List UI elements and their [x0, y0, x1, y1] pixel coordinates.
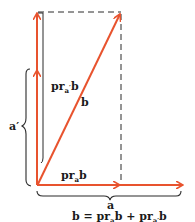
a-prime-direction-line: [38, 13, 43, 163]
equation: b = prab + pra′b: [72, 210, 167, 222]
vector-projection-diagram: b pra′b prab a′ a b = prab + pra′b: [0, 0, 195, 222]
a-prime-brace: [22, 69, 31, 186]
label-pr-a-b: prab: [61, 169, 87, 184]
vectors: [37, 13, 183, 185]
b-vector: [38, 14, 120, 184]
label-pr-a-prime-b: pra′b: [51, 80, 79, 95]
label-b: b: [81, 96, 89, 109]
label-a-prime: a′: [9, 120, 19, 133]
